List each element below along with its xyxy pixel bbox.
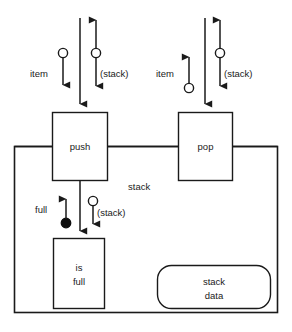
flow-marker-full-flag [61, 218, 71, 228]
data-store-label-line2: data [205, 290, 224, 301]
module-box-is-full[interactable] [54, 239, 105, 309]
stack-structure-chart: push pop stack item (stack) item (stack) [0, 0, 292, 332]
module-label-is-full-line1: is [76, 262, 83, 273]
module-label-is-full-line2: full [73, 276, 85, 287]
flow-label-push-item: item [30, 68, 48, 79]
flow-label-push-stack: (stack) [100, 68, 129, 79]
data-store-label-line1: stack [203, 276, 225, 287]
flow-label-pop-stack: (stack) [224, 68, 253, 79]
module-label-push: push [70, 141, 91, 152]
data-store-stack-data[interactable] [158, 266, 271, 309]
flow-label-isfull-stack: (stack) [97, 207, 126, 218]
flow-label-full-flag: full [35, 204, 47, 215]
flow-marker-isfull-stack [88, 196, 97, 205]
container-label-stack: stack [128, 181, 150, 192]
flow-marker-push-stack [91, 48, 100, 57]
module-label-pop: pop [198, 141, 214, 152]
flow-marker-pop-item [184, 83, 193, 92]
flow-label-pop-item: item [156, 68, 174, 79]
flow-marker-push-item [58, 48, 67, 57]
diagram-canvas: push pop stack item (stack) item (stack) [0, 0, 292, 332]
flow-marker-pop-stack [215, 48, 224, 57]
